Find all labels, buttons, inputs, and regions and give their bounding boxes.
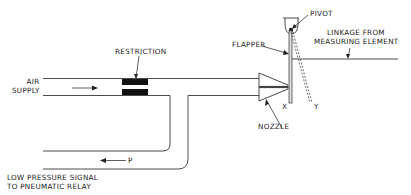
- air-supply-label-line1: AIR: [22, 77, 44, 86]
- flapper-displaced-left: [291, 32, 310, 103]
- linkage-arrowhead: [346, 54, 350, 59]
- flapper-label: FLAPPER: [232, 40, 266, 49]
- signal-label-line1: LOW PRESSURE SIGNAL: [7, 173, 98, 182]
- restriction-block-top: [122, 79, 148, 85]
- flapper-displaced-right: [293, 32, 312, 103]
- nozzle-arrowhead: [265, 99, 269, 106]
- linkage-label-line1: LINKAGE FROM: [327, 28, 385, 37]
- pivot-leader: [294, 15, 308, 27]
- flapper-leader: [262, 46, 286, 53]
- nozzle-label: NOZZLE: [258, 122, 289, 131]
- linkage-label-line2: MEASURING ELEMENT: [314, 37, 399, 46]
- pressure-arrowhead: [100, 158, 106, 163]
- branch-outer-pipe: [43, 96, 188, 170]
- air-supply-arrowhead: [92, 86, 98, 91]
- y-label: Y: [314, 102, 319, 111]
- flapper: [289, 31, 292, 103]
- restriction-label: RESTRICTION: [115, 47, 166, 56]
- x-label: X: [282, 102, 287, 111]
- air-supply-label-line2: SUPPLY: [12, 86, 40, 95]
- pivot-label: PIVOT: [310, 9, 333, 18]
- signal-label-line2: TO PNEUMATIC RELAY: [7, 182, 91, 191]
- p-label: P: [128, 156, 133, 165]
- branch-inner-pipe: [43, 96, 170, 152]
- restriction-block-bottom: [122, 89, 148, 95]
- flapper-arrowhead: [283, 50, 289, 55]
